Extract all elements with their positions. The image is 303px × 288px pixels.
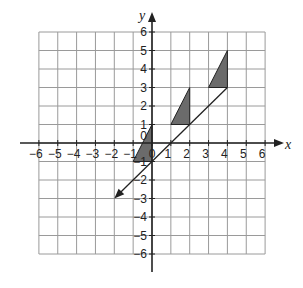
y-tick-label: −1 xyxy=(133,155,147,169)
x-tick-label: −2 xyxy=(104,147,118,161)
x-tick-label: 6 xyxy=(259,147,266,161)
y-tick-label: 3 xyxy=(140,81,147,95)
y-tick-label: 4 xyxy=(140,62,147,76)
x-axis-label: x xyxy=(284,137,292,152)
y-tick-label: 2 xyxy=(140,99,147,113)
x-tick-label: 4 xyxy=(221,147,228,161)
x-tick-label: 3 xyxy=(202,147,209,161)
y-tick-label: −3 xyxy=(133,192,147,206)
origin-label: 0 xyxy=(140,129,147,143)
y-axis-arrow-icon xyxy=(148,12,156,22)
x-tick-label: 0 xyxy=(149,147,156,161)
x-tick-label: 5 xyxy=(240,147,247,161)
x-tick-label: 1 xyxy=(165,147,172,161)
x-tick-label: −3 xyxy=(86,147,100,161)
y-tick-label: −6 xyxy=(133,247,147,261)
x-axis-arrow-icon xyxy=(274,139,284,147)
x-tick-label: 2 xyxy=(183,147,190,161)
y-axis-label: y xyxy=(137,8,146,23)
x-tick-label: −5 xyxy=(48,147,62,161)
y-tick-label: 6 xyxy=(140,25,147,39)
y-tick-label: −4 xyxy=(133,210,147,224)
y-tick-label: −5 xyxy=(133,229,147,243)
coordinate-plane: −6−5−4−3−2−10123456654321−1−2−3−4−5−60 x… xyxy=(0,0,303,288)
x-tick-label: −6 xyxy=(29,147,43,161)
y-tick-label: 5 xyxy=(140,44,147,58)
x-tick-label: −4 xyxy=(67,147,81,161)
y-tick-label: −2 xyxy=(133,173,147,187)
